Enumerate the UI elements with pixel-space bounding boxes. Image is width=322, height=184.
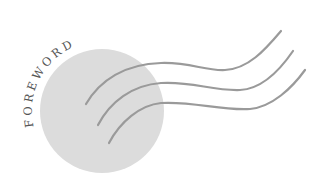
foreword-illustration: FOREWORD (0, 0, 322, 184)
gray-disc (40, 49, 164, 173)
